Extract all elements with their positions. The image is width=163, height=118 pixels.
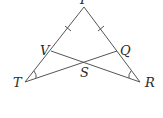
segment-tq xyxy=(25,51,117,82)
triangle-diagram: P V Q S T R xyxy=(0,0,163,118)
angle-mark-t xyxy=(34,71,36,78)
label-p: P xyxy=(79,0,89,7)
label-t: T xyxy=(13,75,23,90)
angle-mark-r xyxy=(129,71,131,78)
label-s: S xyxy=(80,65,89,80)
label-r: R xyxy=(144,75,155,90)
segment-pr xyxy=(84,7,140,82)
segment-pt xyxy=(25,7,84,82)
label-q: Q xyxy=(120,43,131,58)
label-v: V xyxy=(40,43,51,58)
